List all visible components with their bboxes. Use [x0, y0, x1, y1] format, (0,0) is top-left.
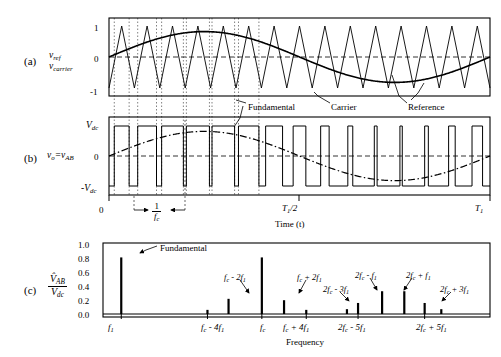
leader-fc+2f1: [299, 280, 306, 293]
leader-reference: [392, 75, 407, 103]
spectrum-bars: [103, 257, 490, 314]
leader-2fc+3f1: [442, 292, 451, 301]
leader-fc-2f1: [240, 280, 249, 293]
leader-2fc+f1: [404, 278, 412, 290]
leader-carrier: [314, 92, 330, 103]
leader-2fc-3f1: [340, 292, 349, 301]
figure-canvas: [0, 0, 501, 357]
leader-fundamental-c: [140, 246, 157, 253]
panel-c-frame: [103, 243, 490, 317]
leader-fundamental-a: [236, 100, 246, 103]
pwm-figure: (a) vref vcarrier 1 0 -1 (b) vo=vAB Vdc …: [0, 0, 501, 357]
leader-2fc-f1: [370, 278, 377, 290]
